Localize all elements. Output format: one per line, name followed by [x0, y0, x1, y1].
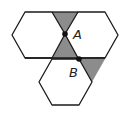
- shaded-triangle-right: [79, 59, 105, 82]
- diagram-svg: A B: [0, 0, 121, 114]
- point-b-dot: [76, 56, 82, 62]
- hexagon-diagram: A B: [0, 0, 121, 114]
- point-a-dot: [62, 31, 68, 37]
- point-a-label: A: [72, 27, 82, 42]
- point-b-label: B: [69, 65, 78, 80]
